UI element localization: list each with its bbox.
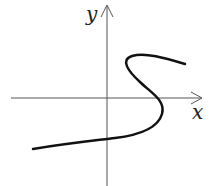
x-axis-label: x [192,102,203,122]
s-curve [33,55,185,149]
y-axis [101,5,113,186]
y-axis-label: y [86,4,97,24]
graph-canvas [0,0,221,186]
